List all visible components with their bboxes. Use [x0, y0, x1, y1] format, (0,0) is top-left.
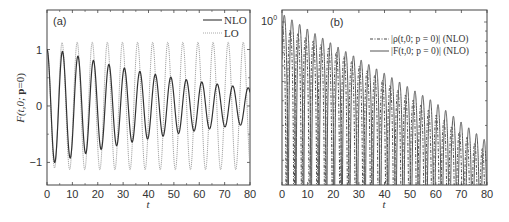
- x-tick-label: 10: [66, 188, 78, 200]
- legend-nlo-label: NLO: [224, 14, 247, 26]
- x-tick-label: 20: [92, 188, 104, 200]
- legend-F-label: |F(t,0; p = 0)| (NLO): [391, 46, 469, 57]
- x-tick-label: 30: [353, 188, 365, 200]
- panel-b: 01020304050607080 100 (b) |ρ(t,0; p = 0)…: [261, 10, 493, 222]
- x-tick-label: 50: [168, 188, 180, 200]
- series-lo-line: [47, 42, 250, 170]
- x-tick-label: 0: [44, 188, 50, 200]
- panel-a-y-axis-label: F(t,0; p=0): [14, 73, 27, 124]
- x-tick-label: 30: [117, 188, 129, 200]
- panel-a-label: (a): [53, 15, 66, 27]
- x-tick-label: 10: [302, 188, 314, 200]
- x-tick-label: 70: [455, 188, 467, 200]
- legend-rho-label: |ρ(t,0; p = 0)| (NLO): [391, 34, 468, 45]
- y-tick-label: 0: [36, 100, 42, 112]
- x-tick-label: 80: [481, 188, 493, 200]
- panel-a-legend: NLO LO: [203, 14, 247, 39]
- x-tick-label: 20: [327, 188, 339, 200]
- panel-b-label: (b): [330, 16, 343, 28]
- y-tick-label: −1: [29, 156, 42, 168]
- x-tick-label: 70: [219, 188, 231, 200]
- legend-lo-label: LO: [224, 27, 239, 39]
- x-tick-label: 50: [404, 188, 416, 200]
- figure: 01020304050607080 10−1 (a) NLO LO t F(t,…: [0, 0, 509, 222]
- panel-b-ytick-10-0: 100: [261, 14, 277, 27]
- panel-b-legend: |ρ(t,0; p = 0)| (NLO) |F(t,0; p = 0)| (N…: [367, 30, 485, 57]
- x-tick-label: 80: [244, 188, 256, 200]
- x-tick-label: 0: [279, 188, 285, 200]
- panel-a: 01020304050607080 10−1 (a) NLO LO t F(t,…: [14, 10, 256, 210]
- x-tick-label: 60: [193, 188, 205, 200]
- y-tick-label: 1: [36, 44, 42, 56]
- x-tick-label: 60: [430, 188, 442, 200]
